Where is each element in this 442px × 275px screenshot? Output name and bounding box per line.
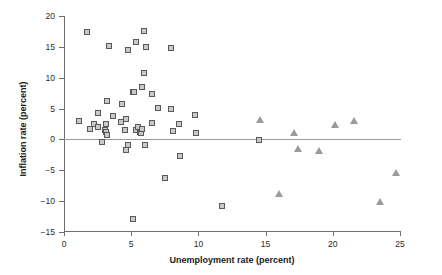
scatter-plot-figure: −15−10−505101520 0510152025 Inflation ra… <box>0 0 442 275</box>
data-point-triangle <box>294 145 302 152</box>
data-point-square <box>104 98 110 104</box>
data-point-square <box>256 137 262 143</box>
data-point-square <box>141 28 147 34</box>
data-point-triangle <box>275 190 283 197</box>
data-point-square <box>177 153 183 159</box>
x-axis-title: Unemployment rate (percent) <box>0 255 442 265</box>
data-point-square <box>139 84 145 90</box>
y-tick-label: 15 <box>25 42 55 52</box>
data-point-square <box>139 126 145 132</box>
data-point-triangle <box>350 117 358 124</box>
data-point-square <box>76 118 82 124</box>
data-point-square <box>131 89 137 95</box>
x-tick <box>198 231 199 236</box>
data-point-square <box>110 113 116 119</box>
data-point-square <box>219 203 225 209</box>
data-point-square <box>142 142 148 148</box>
data-point-square <box>168 106 174 112</box>
x-tick-label: 10 <box>183 239 213 249</box>
x-tick-label: 15 <box>251 239 281 249</box>
data-point-square <box>84 29 90 35</box>
data-point-square <box>155 105 161 111</box>
y-tick-label: −10 <box>25 196 55 206</box>
x-tick <box>333 231 334 236</box>
x-tick <box>400 231 401 236</box>
data-point-triangle <box>376 198 384 205</box>
x-tick <box>64 231 65 236</box>
data-point-square <box>122 127 128 133</box>
x-tick-label: 20 <box>318 239 348 249</box>
data-point-square <box>162 175 168 181</box>
data-point-square <box>176 121 182 127</box>
data-point-square <box>143 44 149 50</box>
x-axis-line <box>64 231 401 232</box>
data-point-square <box>170 128 176 134</box>
data-point-square <box>104 132 110 138</box>
data-point-square <box>87 126 93 132</box>
data-point-triangle <box>392 169 400 176</box>
data-point-square <box>119 101 125 107</box>
y-tick-label: 10 <box>25 73 55 83</box>
y-tick-label: −15 <box>25 227 55 237</box>
data-point-square <box>125 47 131 53</box>
data-point-square <box>95 110 101 116</box>
data-point-square <box>106 43 112 49</box>
x-tick <box>131 231 132 236</box>
data-point-square <box>103 121 109 127</box>
data-point-square <box>149 91 155 97</box>
data-point-square <box>130 216 136 222</box>
data-point-square <box>168 45 174 51</box>
data-point-square <box>193 130 199 136</box>
y-tick-label: 20 <box>25 11 55 21</box>
y-axis-title: Inflation rate (percent) <box>18 59 28 199</box>
data-point-triangle <box>256 116 264 123</box>
y-tick-label: −5 <box>25 165 55 175</box>
data-point-square <box>95 124 101 130</box>
data-point-triangle <box>315 147 323 154</box>
x-tick-label: 5 <box>116 239 146 249</box>
x-tick-label: 0 <box>49 239 79 249</box>
data-point-square <box>123 116 129 122</box>
data-point-square <box>149 120 155 126</box>
data-point-square <box>141 70 147 76</box>
data-point-square <box>99 139 105 145</box>
data-point-square <box>192 112 198 118</box>
data-point-triangle <box>290 129 298 136</box>
data-point-square <box>125 142 131 148</box>
x-tick <box>266 231 267 236</box>
data-point-triangle <box>331 121 339 128</box>
x-tick-label: 25 <box>385 239 415 249</box>
y-tick-label: 5 <box>25 104 55 114</box>
data-point-square <box>133 39 139 45</box>
y-tick-label: 0 <box>25 134 55 144</box>
